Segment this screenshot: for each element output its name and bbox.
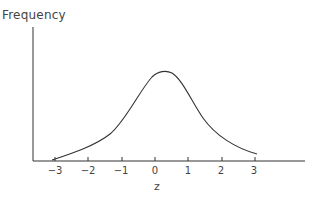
x-tick-label: −1 [114, 165, 129, 176]
x-tick-label: 2 [218, 165, 224, 176]
x-tick-label: 1 [185, 165, 191, 176]
x-tick-label: −3 [48, 165, 63, 176]
x-tick-label: −2 [81, 165, 96, 176]
x-tick-label: 0 [152, 165, 158, 176]
x-ticks [55, 157, 255, 161]
x-tick-label: 3 [251, 165, 257, 176]
frequency-curve [52, 71, 257, 160]
x-axis-label: z [154, 180, 160, 193]
